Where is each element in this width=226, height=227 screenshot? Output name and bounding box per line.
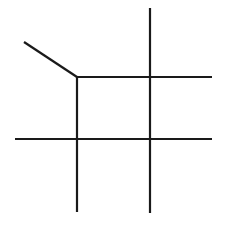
background xyxy=(0,0,226,227)
figure-canvas xyxy=(0,0,226,227)
line-diagram xyxy=(0,0,226,227)
